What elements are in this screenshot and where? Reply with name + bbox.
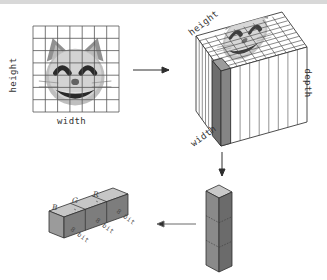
cube-top-grid — [199, 17, 305, 74]
arrow-cube-to-column — [219, 152, 225, 176]
flat-image-panel — [33, 26, 119, 112]
image-height-label: height — [8, 58, 18, 93]
image-width-label: width — [57, 116, 86, 126]
channel-label-b: B — [52, 203, 58, 212]
diagram-canvas: height width height width depth B G R 8 … — [0, 0, 327, 280]
cube-depth-label: depth — [303, 68, 313, 97]
channel-label-g: G — [72, 196, 78, 205]
cube-front-columns — [231, 50, 298, 144]
top-edge-band — [0, 0, 327, 4]
diagram-artwork — [0, 0, 327, 280]
arrow-column-to-bar — [157, 221, 196, 227]
pixel-grid — [33, 26, 119, 112]
cube-right-face — [221, 47, 307, 146]
bit-depth-label-b: 8 bit — [69, 225, 91, 245]
bit-depth-label-g: 8 bit — [94, 216, 116, 236]
arrow-image-to-cube — [133, 67, 169, 73]
cube-height-label: height — [187, 8, 221, 37]
bit-depth-label-r: 8 bit — [115, 207, 137, 227]
cube-width-label: width — [189, 123, 218, 148]
extracted-column-panel — [206, 185, 232, 272]
channel-label-r: R — [93, 190, 99, 199]
